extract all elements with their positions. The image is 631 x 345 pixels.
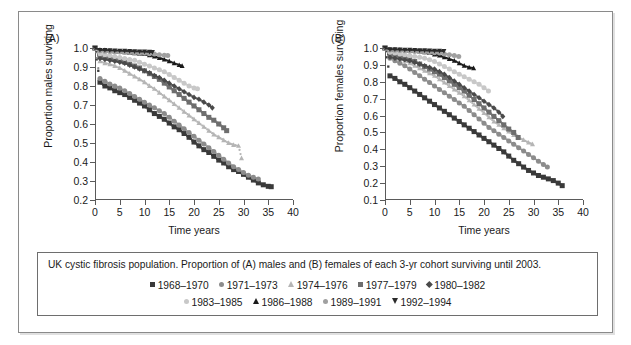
y-axis-tick (380, 65, 385, 66)
legend-circle-icon (219, 282, 224, 287)
y-axis-tick (90, 67, 95, 68)
panel-b-plot-area: 0.10.20.30.40.50.60.70.80.91.00510152025… (385, 48, 583, 200)
legend-row-1: 1968–19701971–19731974–19761977–19791980… (38, 279, 597, 291)
x-axis-tick (484, 200, 485, 205)
legend-triangle-up-icon (288, 281, 294, 287)
x-axis-tick-label: 15 (453, 206, 465, 218)
panel-b-x-axis-label: Time years (385, 224, 583, 236)
x-axis-tick (95, 200, 96, 205)
x-axis-tick (385, 200, 386, 205)
y-axis-tick (380, 166, 385, 167)
x-axis-tick-label: 10 (429, 206, 441, 218)
y-axis-tick-label: 0.7 (73, 99, 88, 111)
legend-item-label: 1971–1973 (227, 280, 278, 291)
x-axis-tick-label: 20 (478, 206, 490, 218)
x-axis-tick-label: 5 (117, 206, 123, 218)
y-axis-tick (90, 86, 95, 87)
y-axis-tick-label: 0.4 (363, 143, 378, 155)
legend-item-label: 1977–1979 (366, 280, 417, 291)
x-axis-tick (145, 200, 146, 205)
y-axis-tick (90, 105, 95, 106)
y-axis-tick-label: 0.9 (73, 61, 88, 73)
x-axis-tick-label: 0 (382, 206, 388, 218)
legend-item-1977-1979[interactable]: 1977–1979 (358, 279, 417, 291)
legend-triangle-down-icon (392, 298, 398, 304)
y-axis-tick (380, 132, 385, 133)
x-axis-tick (459, 200, 460, 205)
y-axis-tick (380, 183, 385, 184)
legend-item-label: 1986–1988 (262, 297, 313, 308)
legend-item-1989-1991[interactable]: 1989–1991 (323, 296, 382, 308)
y-axis-tick (90, 162, 95, 163)
y-axis-tick (380, 116, 385, 117)
y-axis-tick (380, 149, 385, 150)
legend-item-1971-1973[interactable]: 1971–1973 (219, 279, 278, 291)
y-axis-tick-label: 0.7 (363, 93, 378, 105)
panel-a-y-axis-label: Proportion males surviving (42, 16, 54, 156)
x-axis-tick (435, 200, 436, 205)
legend-item-label: 1974–1976 (297, 280, 348, 291)
y-axis-tick (380, 99, 385, 100)
x-axis-tick-label: 25 (503, 206, 515, 218)
x-axis-tick (244, 200, 245, 205)
x-axis-tick (194, 200, 195, 205)
y-axis-tick-label: 1.0 (73, 42, 88, 54)
legend-item-label: 1980–1982 (434, 280, 485, 291)
y-axis-tick (380, 48, 385, 49)
x-axis-tick-label: 30 (238, 206, 250, 218)
caption-legend-box: UK cystic fibrosis population. Proportio… (37, 252, 598, 316)
legend-triangle-up-icon (253, 298, 259, 304)
legend-item-1986-1988[interactable]: 1986–1988 (253, 296, 313, 308)
legend-item-label: 1992–1994 (401, 297, 452, 308)
x-axis-tick (583, 200, 584, 205)
y-axis-tick (90, 124, 95, 125)
series-1971-1973 (383, 46, 550, 170)
x-axis-tick-label: 40 (577, 206, 589, 218)
x-axis-tick-label: 10 (139, 206, 151, 218)
x-axis-tick (219, 200, 220, 205)
panel-b-y-axis-label: Proportion females surviving (333, 16, 345, 156)
y-axis-tick-label: 1.0 (363, 42, 378, 54)
y-axis-tick-label: 0.6 (363, 110, 378, 122)
y-axis-tick-label: 0.8 (73, 80, 88, 92)
y-axis-tick-label: 0.3 (73, 175, 88, 187)
legend-circle-icon (323, 299, 328, 304)
legend-item-1968-1970[interactable]: 1968–1970 (150, 279, 209, 291)
legend-item-1983-1985[interactable]: 1983–1985 (184, 296, 243, 308)
x-axis-tick-label: 5 (407, 206, 413, 218)
y-axis-tick-label: 0.5 (73, 137, 88, 149)
legend-row-2: 1983–19851986–19881989–19911992–1994 (38, 296, 597, 308)
x-axis-tick-label: 35 (552, 206, 564, 218)
legend-diamond-icon (426, 281, 432, 287)
y-axis-tick (90, 143, 95, 144)
legend-item-1980-1982[interactable]: 1980–1982 (427, 279, 486, 291)
y-axis-tick-label: 0.3 (363, 160, 378, 172)
x-axis-tick (293, 200, 294, 205)
y-axis-tick-label: 0.1 (363, 194, 378, 206)
x-axis-tick-label: 20 (188, 206, 200, 218)
y-axis-tick-label: 0.8 (363, 76, 378, 88)
panel-a-x-axis-label: Time years (95, 224, 293, 236)
legend-item-1992-1994[interactable]: 1992–1994 (392, 296, 452, 308)
x-axis-tick (268, 200, 269, 205)
figure-container: (A) Proportion males surviving 0.20.30.4… (18, 11, 613, 333)
x-axis-tick-label: 25 (213, 206, 225, 218)
y-axis-tick-label: 0.9 (363, 59, 378, 71)
x-axis-tick (534, 200, 535, 205)
x-axis-tick (509, 200, 510, 205)
y-axis-tick (90, 181, 95, 182)
y-axis-tick-label: 0.5 (363, 126, 378, 138)
legend-item-1974-1976[interactable]: 1974–1976 (288, 279, 348, 291)
y-axis-tick (380, 82, 385, 83)
y-axis-tick-label: 0.4 (73, 156, 88, 168)
panel-a-plot-area: 0.20.30.40.50.60.70.80.91.00510152025303… (95, 48, 293, 200)
x-axis-tick-label: 40 (287, 206, 299, 218)
x-axis-tick (120, 200, 121, 205)
y-axis-tick (90, 48, 95, 49)
x-axis-tick-label: 35 (262, 206, 274, 218)
y-axis-tick-label: 0.6 (73, 118, 88, 130)
chart-panel-a: (A) Proportion males surviving 0.20.30.4… (23, 20, 319, 235)
y-axis-tick-label: 0.2 (363, 177, 378, 189)
legend-item-label: 1989–1991 (331, 297, 382, 308)
legend-circle-icon (184, 299, 189, 304)
